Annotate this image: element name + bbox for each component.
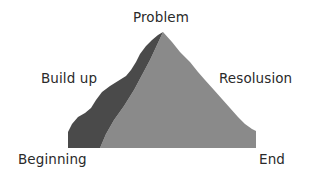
story-arc-diagram: Problem Build up Resolusion Beginning En… [0, 0, 309, 184]
beginning-label: Beginning [18, 153, 87, 167]
end-label: End [259, 153, 285, 167]
resolution-label: Resolusion [219, 72, 292, 86]
build-up-label: Build up [41, 72, 97, 86]
peak-label: Problem [133, 11, 189, 25]
